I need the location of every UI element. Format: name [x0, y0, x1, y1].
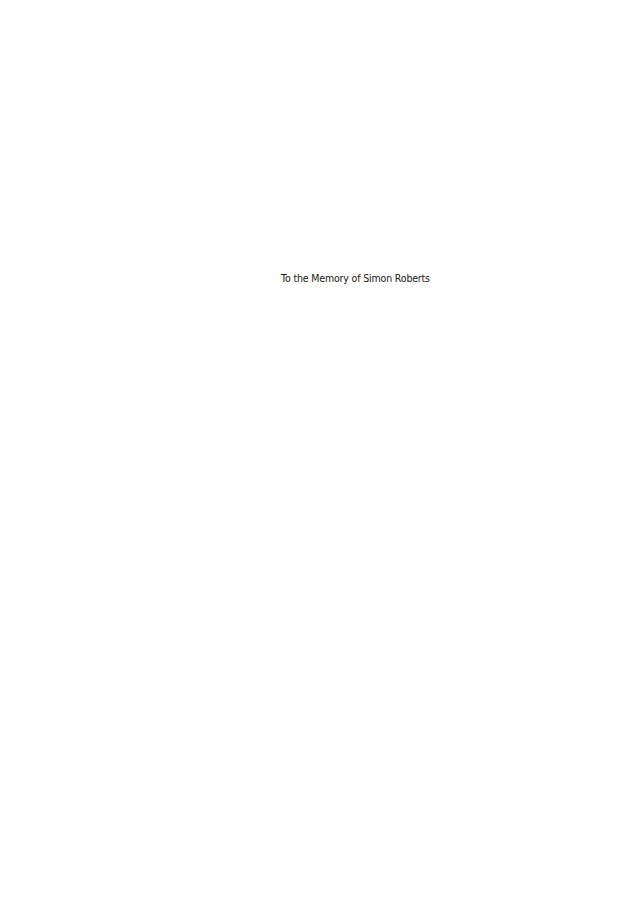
dedication-text: To the Memory of Simon Roberts	[281, 271, 427, 287]
document-page: To the Memory of Simon Roberts	[0, 0, 617, 920]
